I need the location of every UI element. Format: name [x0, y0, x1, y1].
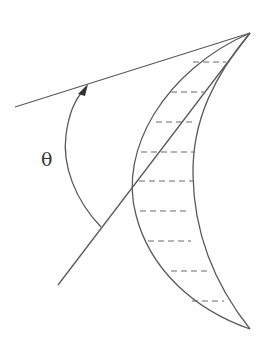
- angle-arc: [65, 90, 101, 227]
- diagonal-line: [58, 33, 250, 285]
- crescent-inner-curve: [193, 33, 250, 329]
- upper-line: [15, 33, 250, 107]
- crescent-diagram: [0, 0, 270, 348]
- angle-label-theta: θ: [41, 148, 52, 170]
- hatch-lines: [139, 62, 226, 301]
